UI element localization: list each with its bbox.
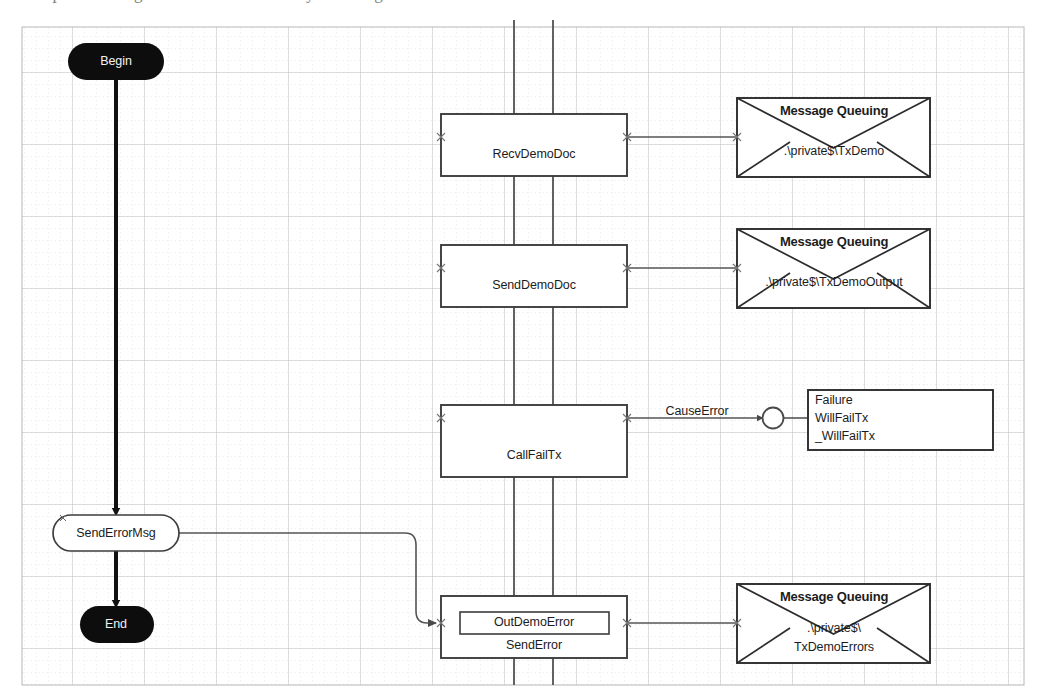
port-title-mq1: Message Queuing [780,103,888,118]
failure-box-line-2: WillFailTx [815,411,868,425]
node-senddemodoc[interactable] [437,245,631,307]
node-label-senddemodoc: SendDemoDoc [492,278,576,292]
orchestration-diagram-canvas: be inspected using the Health and Activi… [0,0,1044,700]
port-queue-mq3-line2: TxDemoErrors [794,640,874,654]
connector-label-causeerror: CauseError [666,404,729,418]
node-callfailtx[interactable] [437,405,631,477]
node-label-senderrormsg: SendErrorMsg [76,526,155,540]
node-label-begin: Begin [100,54,131,68]
node-label-end: End [105,617,127,631]
node-label-senderror: SendError [506,638,562,652]
node-recvdemodoc[interactable] [437,114,631,176]
port-title-mq2: Message Queuing [780,234,888,249]
node-label-callfailtx: CallFailTx [507,448,562,462]
failure-box-line-3: _WillFailTx [815,429,875,443]
node-label-recvdemodoc: RecvDemoDoc [493,147,576,161]
failure-box-line-1: Failure [815,393,853,407]
node-label-outdemoerror: OutDemoError [494,615,574,629]
port-queue-mq3-line1: .\private$\ [807,621,861,635]
port-title-mq3: Message Queuing [780,589,888,604]
port-queue-mq2: .\private$\TxDemoOutput [765,275,902,289]
port-queue-mq1: .\private$\TxDemo [784,144,884,158]
